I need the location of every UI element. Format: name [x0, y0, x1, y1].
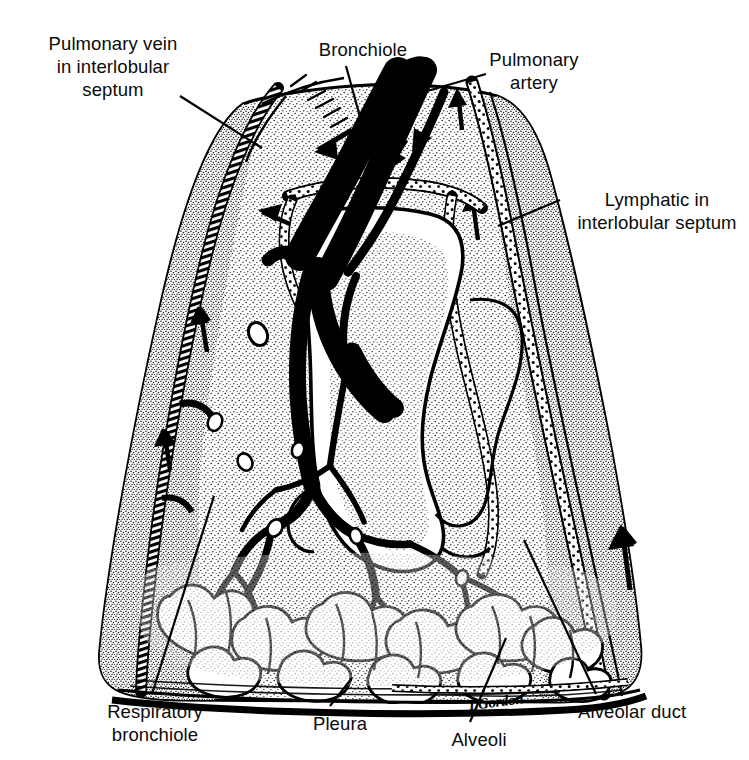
label-respiratory-bronchiole: Respiratory bronchiole: [80, 700, 230, 746]
label-alveoli: Alveoli: [436, 728, 522, 751]
illustration-canvas: Pulmonary vein in interlobular septum Br…: [0, 0, 749, 760]
label-alveolar-duct: Alveolar duct: [578, 700, 738, 723]
pulmonary-lobule-figure: [0, 0, 749, 760]
label-pulmonary-vein: Pulmonary vein in interlobular septum: [28, 32, 198, 101]
label-lymphatic: Lymphatic in interlobular septum: [566, 188, 748, 234]
label-pleura: Pleura: [295, 712, 385, 735]
label-pulmonary-artery: Pulmonary artery: [468, 48, 600, 94]
label-bronchiole: Bronchiole: [298, 38, 428, 61]
